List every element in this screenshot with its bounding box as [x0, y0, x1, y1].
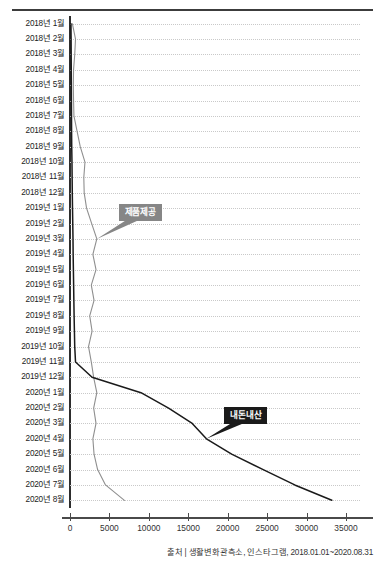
y-axis-label: 2020년 5월 [26, 449, 65, 458]
series-line [72, 24, 124, 501]
y-axis-label: 2018년 1월 [26, 19, 65, 28]
plot-area [70, 16, 360, 508]
y-axis-label: 2019년 4월 [26, 249, 65, 258]
y-axis-category-labels: 2018년 1월2018년 2월2018년 3월2018년 4월2018년 5월… [0, 0, 70, 520]
x-axis-tick-label: 35000 [334, 523, 357, 533]
y-axis-label: 2019년 8월 [26, 311, 65, 320]
y-axis-label: 2020년 3월 [26, 418, 65, 427]
y-axis-label: 2018년 3월 [26, 49, 65, 58]
y-axis-label: 2018년 11월 [22, 172, 65, 181]
y-axis-label: 2020년 6월 [26, 465, 65, 474]
x-axis-tick [228, 513, 229, 521]
chart-container: 2018년 1월2018년 2월2018년 3월2018년 4월2018년 5월… [0, 0, 385, 540]
y-axis-label: 2019년 2월 [26, 219, 65, 228]
y-axis-label: 2019년 3월 [26, 234, 65, 243]
callout-own-money: 내돈내산 [224, 407, 267, 424]
y-axis-label: 2018년 12월 [21, 188, 65, 197]
y-axis-label: 2020년 1월 [26, 388, 65, 397]
y-axis-label: 2019년 11월 [22, 357, 65, 366]
y-axis-label: 2018년 10월 [21, 157, 65, 166]
x-axis-tick [307, 513, 308, 521]
callout-product-provided: 제품제공 [119, 204, 162, 221]
y-axis-label: 2018년 6월 [26, 96, 65, 105]
source-note: 출처 | 생활변화관측소, 인스타그램, 2018.01.01~2020.08.… [0, 545, 373, 557]
y-axis-label: 2019년 6월 [26, 280, 65, 289]
y-axis-label: 2018년 4월 [26, 65, 65, 74]
y-axis-label: 2018년 7월 [26, 111, 65, 120]
x-axis-tick-label: 25000 [255, 523, 278, 533]
y-axis-label: 2020년 7월 [26, 480, 65, 489]
x-axis-tick-label: 0 [68, 523, 73, 533]
y-axis-label: 2018년 8월 [26, 126, 65, 135]
y-axis-label: 2018년 5월 [26, 80, 65, 89]
x-axis-tick [149, 513, 150, 521]
x-axis-tick-label: 20000 [216, 523, 239, 533]
x-axis-tick-label: 15000 [177, 523, 200, 533]
series-line [71, 24, 332, 501]
x-axis-tick [70, 513, 71, 521]
x-axis-tick [346, 513, 347, 521]
x-axis-tick-label: 10000 [137, 523, 160, 533]
chart-page: 2018년 1월2018년 2월2018년 3월2018년 4월2018년 5월… [0, 0, 385, 570]
y-axis-label: 2020년 4월 [26, 434, 65, 443]
y-axis-label: 2020년 8월 [26, 495, 65, 504]
y-axis-label: 2019년 9월 [26, 326, 65, 335]
y-axis-label: 2019년 5월 [26, 265, 65, 274]
y-axis-label: 2019년 1월 [26, 203, 65, 212]
y-axis-label: 2018년 9월 [26, 142, 65, 151]
x-axis-tick [109, 513, 110, 521]
x-axis-tick [267, 513, 268, 521]
y-axis-label: 2019년 7월 [26, 295, 65, 304]
x-axis-tick-label: 5000 [100, 523, 119, 533]
y-axis-label: 2020년 2월 [26, 403, 65, 412]
y-axis-label: 2018년 2월 [26, 34, 65, 43]
y-axis-label: 2019년 10월 [21, 342, 65, 351]
x-axis-tick [188, 513, 189, 521]
y-axis-label: 2019년 12월 [21, 372, 65, 381]
series-lines [70, 16, 360, 508]
x-axis-tick-label: 30000 [295, 523, 318, 533]
